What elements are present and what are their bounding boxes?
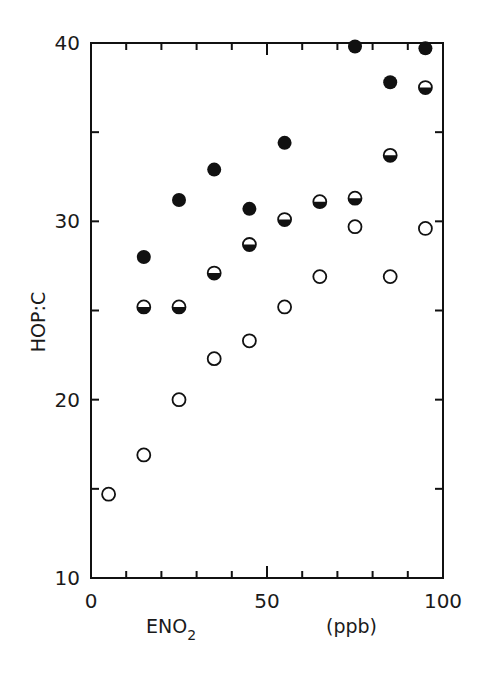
x-axis-label-main: ENO: [146, 615, 187, 637]
y-tick-label: 40: [55, 31, 80, 55]
filled-circle-marker: [383, 75, 397, 89]
open-circle-marker: [384, 270, 397, 283]
half-filled-circle-marker: [243, 238, 256, 251]
open-circle-marker: [173, 393, 186, 406]
half-filled-circle-marker: [384, 149, 397, 162]
filled-circle-marker: [278, 136, 292, 150]
x-tick-label: 0: [85, 589, 98, 613]
half-filled-circle-marker: [419, 81, 432, 94]
y-tick-label: 30: [55, 209, 80, 233]
half-filled-circle-marker: [173, 300, 186, 313]
open-circle-marker: [313, 270, 326, 283]
half-filled-circle-marker: [278, 213, 291, 226]
half-filled-circle-marker: [208, 267, 221, 280]
filled-circle-marker: [137, 250, 151, 264]
open-circle-marker: [278, 300, 291, 313]
open-circle-marker: [208, 352, 221, 365]
scatter-chart: 05010010203040 ENO2 (ppb) HOP:C: [0, 0, 490, 680]
open-circle-marker: [243, 334, 256, 347]
y-tick-label: 10: [55, 566, 80, 590]
half-filled-circle-marker: [137, 300, 150, 313]
filled-circle-marker: [348, 40, 362, 54]
x-tick-label: 100: [424, 589, 462, 613]
tick-labels: 05010010203040: [55, 31, 463, 613]
y-axis-label: HOP:C: [27, 292, 49, 352]
x-axis-label-subscript: 2: [187, 627, 196, 643]
x-axis-label: ENO2: [146, 615, 196, 643]
half-filled-circle-marker: [313, 195, 326, 208]
filled-circle-marker: [242, 202, 256, 216]
filled-circle-marker: [172, 193, 186, 207]
open-circle-marker: [419, 222, 432, 235]
y-tick-label: 20: [55, 388, 80, 412]
half-filled-circle-marker: [349, 192, 362, 205]
open-circle-marker: [137, 448, 150, 461]
filled-circle-marker: [418, 41, 432, 55]
open-circle-marker: [349, 220, 362, 233]
filled-circle-marker: [207, 163, 221, 177]
open-circle-marker: [102, 488, 115, 501]
x-tick-label: 50: [254, 589, 279, 613]
x-axis-unit: (ppb): [326, 615, 377, 637]
data-points: [102, 40, 432, 501]
